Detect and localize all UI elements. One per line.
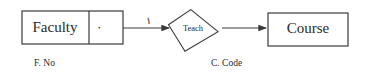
course-entity: Course — [268, 13, 348, 46]
faculty-label: Faculty — [33, 19, 78, 35]
course-key-attribute: C. Code — [211, 58, 242, 68]
teach-label: Teach — [183, 23, 204, 33]
course-label: Course — [287, 20, 330, 36]
faculty-key-attribute: F. No — [34, 58, 55, 68]
faculty-cardinality: ٠ — [96, 20, 102, 34]
faculty-entity: Faculty ٠ — [22, 11, 123, 44]
edge-label-one: ١ — [146, 15, 151, 26]
edge-faculty-teach: ١ — [123, 15, 169, 28]
er-diagram: Faculty ٠ ١ Teach Course F. No C. Code — [0, 0, 367, 73]
teach-relationship: Teach — [165, 7, 220, 56]
